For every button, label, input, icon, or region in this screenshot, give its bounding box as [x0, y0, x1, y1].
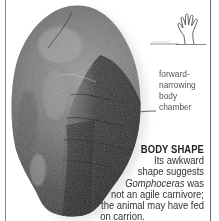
body-shape-caption: BODY SHAPE Its awkward shape suggests Go…	[84, 144, 204, 221]
annotation-line: chamber	[159, 101, 203, 112]
annotation-line: forward-	[159, 68, 203, 79]
caption-line-rest: was	[185, 177, 204, 189]
caption-line: on carrion.	[84, 211, 192, 221]
infographic-panel: forward- narrowing body chamber BODY SHA…	[0, 0, 219, 221]
genus-name: Gomphoceras	[125, 177, 184, 189]
annotation-line: body	[159, 90, 203, 101]
annotation-line: narrowing	[159, 79, 203, 90]
body-chamber-label: forward- narrowing body chamber	[159, 68, 203, 112]
hand-scale-icon	[148, 10, 208, 48]
